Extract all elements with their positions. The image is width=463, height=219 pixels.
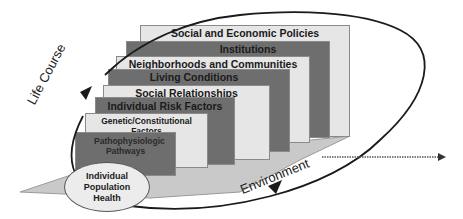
determinants-of-health-diagram: Social and Economic Policies Institution… [0, 0, 463, 219]
individual-population-health-ellipse: Individual Population Health [64, 162, 150, 212]
center-label: Individual Population Health [77, 171, 137, 204]
arrowhead-upper-left-icon [80, 86, 92, 100]
time-arrow-head-icon [438, 153, 446, 161]
